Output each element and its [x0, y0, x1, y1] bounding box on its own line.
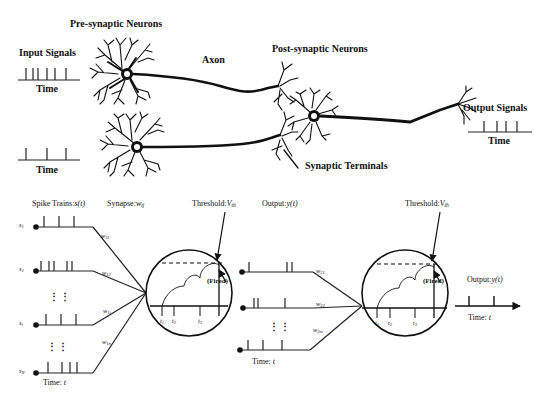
weight-w11: w11 — [101, 233, 110, 241]
input-label-si: si — [19, 320, 23, 328]
pre-synaptic-neuron-2 — [100, 112, 280, 176]
weight-w1n: w1n — [102, 339, 111, 347]
time-label-output: Time: t — [468, 314, 491, 322]
spike-time-t3-n2: t3 — [413, 320, 417, 328]
weight-w21: w21 — [316, 268, 325, 276]
weight-w1i: w1i — [103, 308, 111, 316]
spike-time-t2-n1: t2 — [172, 318, 176, 326]
fired-label-1: (Fired) — [207, 278, 228, 285]
threshold-label-2: Threshold:Vth — [405, 200, 449, 209]
ellipsis-layer1-b: ⋮ ⋮ — [47, 342, 67, 352]
input-time-label-1: Time — [36, 84, 58, 94]
time-label-layer1: Time: t — [43, 379, 66, 387]
spike-time-t2-n2: t2 — [388, 320, 392, 328]
lif-neuron-1 — [146, 212, 232, 336]
lif-neuron-2 — [362, 212, 448, 336]
output-spike-train — [455, 296, 520, 306]
post-synaptic-neuron — [288, 88, 458, 144]
synaptic-terminals — [272, 62, 298, 168]
pre-synaptic-neuron-1 — [90, 38, 278, 104]
layer1-input-dots — [33, 224, 39, 376]
input-time-label-2: Time — [36, 165, 58, 175]
weight-w2m: w2m — [313, 327, 323, 335]
synaptic-terminals-label: Synaptic Terminals — [305, 161, 388, 171]
input-label-sN: sN — [19, 368, 25, 376]
output-label-1: Output:y(t) — [262, 200, 298, 208]
spike-time-t1-n1: t1 — [160, 318, 164, 326]
ellipsis-layer1-a: ⋮ ⋮ — [49, 292, 69, 302]
output-label-2: Output:y(t) — [467, 276, 503, 284]
input-signal-train-2 — [18, 148, 80, 160]
input-label-s2: s2 — [19, 266, 24, 274]
weight-w12: w12 — [102, 270, 111, 278]
input-signals-label: Input Signals — [19, 48, 76, 58]
ellipsis-layer2: ⋮ ⋮ — [269, 322, 289, 332]
spike-trains-label: Spike Trains:s(t) — [32, 200, 85, 208]
fired-label-2: (Fired) — [423, 278, 444, 285]
layer2-input-dots — [237, 269, 246, 353]
synapse-label: Synapse:wij — [107, 200, 144, 209]
input-label-s1: s1 — [19, 222, 24, 230]
pre-synaptic-neurons-label: Pre-synaptic Neurons — [70, 19, 162, 29]
threshold-label-1: Threshold:Vth — [192, 200, 236, 209]
output-time-label: Time — [488, 136, 510, 146]
input-signal-train-1 — [18, 68, 80, 80]
spike-time-t1-n2: t1 — [375, 320, 379, 328]
spike-time-t3-n1: t3 — [198, 318, 202, 326]
time-label-layer2: Time: t — [252, 358, 275, 366]
output-signals-label: Output Signals — [463, 103, 527, 113]
layer2-spike-trains — [240, 262, 362, 350]
post-synaptic-neurons-label: Post-synaptic Neurons — [272, 44, 368, 54]
weight-w22: w22 — [316, 301, 325, 309]
axon-label: Axon — [202, 55, 225, 65]
output-signal-train — [468, 121, 532, 132]
